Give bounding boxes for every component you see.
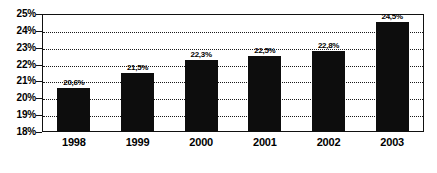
y-axis-tick-mark [36, 115, 42, 116]
y-axis: 25%24%23%22%21%20%19%18% [0, 0, 40, 173]
y-tick-label: 24% [17, 26, 36, 36]
x-tick-label: 1999 [106, 136, 170, 148]
bar[interactable] [376, 22, 409, 132]
bar-value-label: 21,5% [127, 63, 148, 72]
x-tick-label: 2003 [360, 136, 424, 148]
bar-chart: 25%24%23%22%21%20%19%18% 20,6%21,5%22,3%… [0, 0, 437, 173]
x-tick-label: 2002 [297, 136, 361, 148]
y-tick-label: 21% [17, 76, 36, 86]
bar[interactable] [121, 73, 154, 132]
bar-group: 20,6% [57, 14, 90, 132]
y-axis-tick-mark [36, 98, 42, 99]
bar-group: 22,3% [185, 14, 218, 132]
y-axis-tick-mark [36, 81, 42, 82]
bar[interactable] [312, 51, 345, 132]
bar-value-label: 22,5% [254, 46, 275, 55]
bar[interactable] [57, 88, 90, 132]
bar[interactable] [185, 60, 218, 132]
y-tick-label: 18% [17, 127, 36, 137]
y-axis-tick-mark [36, 48, 42, 49]
bars-layer: 20,6%21,5%22,3%22,5%22,8%24,5% [42, 14, 424, 132]
x-tick-label: 1998 [42, 136, 106, 148]
y-axis-tick-mark [36, 14, 42, 15]
x-tick-label: 2001 [233, 136, 297, 148]
y-tick-label: 25% [17, 9, 36, 19]
y-tick-label: 22% [17, 60, 36, 70]
x-axis: 199819992000200120022003 [42, 136, 424, 156]
y-axis-tick-mark [36, 65, 42, 66]
bar-group: 22,5% [248, 14, 281, 132]
bar-value-label: 22,8% [318, 41, 339, 50]
bar-value-label: 22,3% [191, 50, 212, 59]
x-tick-label: 2000 [169, 136, 233, 148]
y-axis-tick-mark [36, 132, 42, 133]
y-tick-label: 19% [17, 110, 36, 120]
bar-value-label: 24,5% [382, 12, 403, 21]
bar-group: 22,8% [312, 14, 345, 132]
bar-group: 24,5% [376, 14, 409, 132]
bar[interactable] [248, 56, 281, 132]
y-tick-label: 20% [17, 93, 36, 103]
y-axis-tick-mark [36, 31, 42, 32]
bar-value-label: 20,6% [63, 78, 84, 87]
bar-group: 21,5% [121, 14, 154, 132]
y-tick-label: 23% [17, 43, 36, 53]
